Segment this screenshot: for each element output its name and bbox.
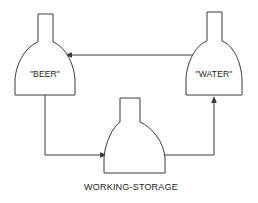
water-vessel-shape bbox=[186, 12, 242, 95]
beer-label: "BEER" bbox=[30, 69, 60, 79]
working-storage-caption: WORKING-STORAGE bbox=[84, 182, 178, 192]
beer-vessel-shape bbox=[15, 14, 75, 95]
edge-working-storage-to-water-arrowhead bbox=[211, 96, 217, 103]
edge-beer-to-working-storage-line bbox=[45, 95, 105, 155]
diagram-canvas: "BEER" "WATER" WORKING-STORAGE bbox=[0, 0, 258, 203]
node-beer[interactable]: "BEER" bbox=[15, 14, 75, 95]
flow-diagram: "BEER" "WATER" WORKING-STORAGE bbox=[0, 0, 258, 203]
working-storage-vessel-shape bbox=[104, 98, 165, 173]
edge-beer-to-working-storage bbox=[45, 95, 107, 158]
edge-working-storage-to-water-line bbox=[164, 98, 214, 155]
edge-water-to-beer bbox=[65, 52, 198, 58]
node-working-storage[interactable] bbox=[104, 98, 165, 173]
node-water[interactable]: "WATER" bbox=[186, 12, 242, 95]
water-label: "WATER" bbox=[196, 69, 233, 79]
edge-working-storage-to-water bbox=[164, 96, 217, 155]
